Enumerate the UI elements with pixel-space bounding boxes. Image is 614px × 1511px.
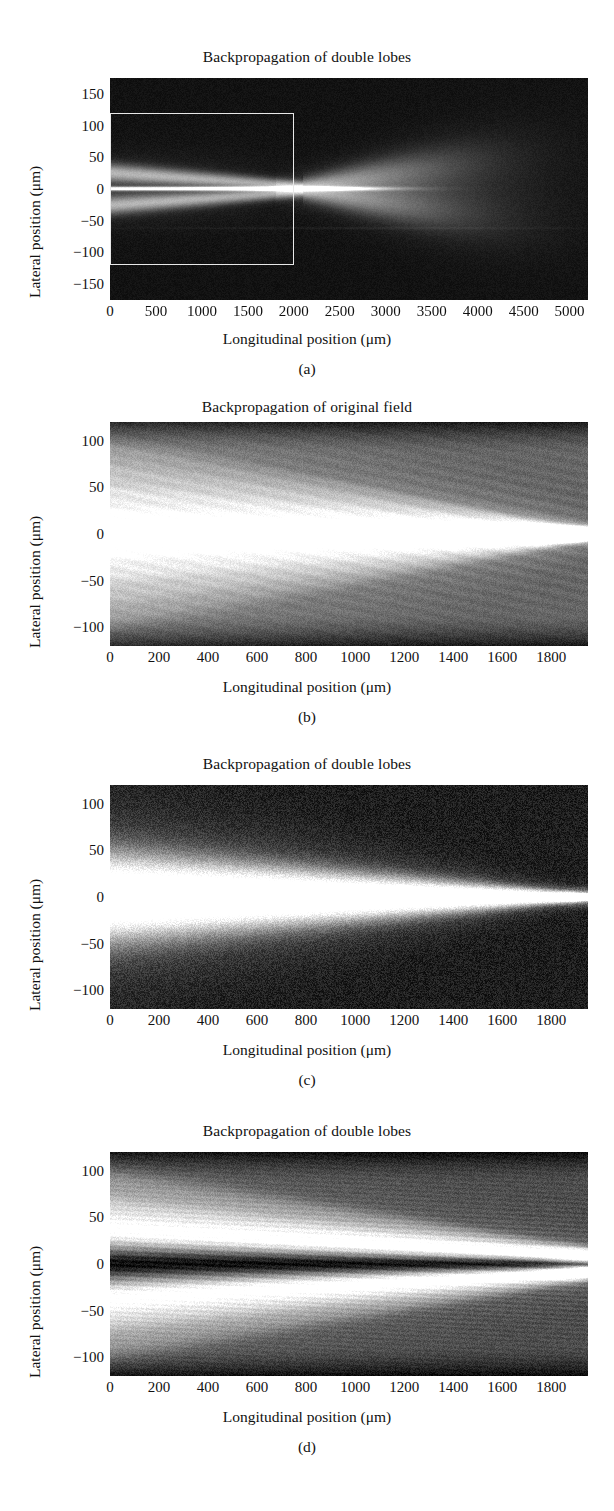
y-tick-label: 50 <box>89 842 104 859</box>
y-tick-label: −100 <box>73 619 104 636</box>
x-tick-label: 400 <box>197 1379 220 1396</box>
y-tick-label: 0 <box>97 526 105 543</box>
x-tick-label: 1200 <box>389 1012 419 1029</box>
panel-b-title: Backpropagation of original field <box>0 398 614 416</box>
y-tick-label: 100 <box>82 432 105 449</box>
x-tick-label: 800 <box>295 649 318 666</box>
panel-b-yticks: 100500−50−100 <box>40 422 104 646</box>
x-tick-label: 800 <box>295 1379 318 1396</box>
panel-c-yticks: 100500−50−100 <box>40 785 104 1009</box>
y-tick-label: −100 <box>73 982 104 999</box>
x-tick-label: 1800 <box>536 649 566 666</box>
panel-b: Backpropagation of original field Latera… <box>0 390 614 745</box>
x-tick-label: 3500 <box>417 303 447 320</box>
panel-b-xlabel: Longitudinal position (μm) <box>0 678 614 696</box>
y-tick-label: −150 <box>73 276 104 293</box>
y-tick-label: 0 <box>97 1256 105 1273</box>
x-tick-label: 0 <box>106 649 114 666</box>
x-tick-label: 1600 <box>487 1379 517 1396</box>
panel-a-heatmap <box>110 78 588 300</box>
x-tick-label: 1000 <box>340 1379 370 1396</box>
panel-d-plot <box>110 1152 588 1376</box>
y-tick-label: −100 <box>73 244 104 261</box>
panel-c-title: Backpropagation of double lobes <box>0 755 614 773</box>
x-tick-label: 500 <box>145 303 168 320</box>
panel-a-xticks: 0500100015002000250030003500400045005000 <box>110 303 588 323</box>
x-tick-label: 800 <box>295 1012 318 1029</box>
y-tick-label: 50 <box>89 1209 104 1226</box>
x-tick-label: 400 <box>197 649 220 666</box>
y-tick-label: 100 <box>82 117 105 134</box>
panel-a-caption: (a) <box>0 360 614 378</box>
panel-c: Backpropagation of double lobes Lateral … <box>0 745 614 1102</box>
panel-c-caption: (c) <box>0 1071 614 1089</box>
y-tick-label: −50 <box>81 212 104 229</box>
x-tick-label: 1000 <box>340 1012 370 1029</box>
x-tick-label: 200 <box>148 1012 171 1029</box>
panel-c-xticks: 020040060080010001200140016001800 <box>110 1012 588 1032</box>
y-tick-label: −50 <box>81 935 104 952</box>
panel-a: Backpropagation of double lobes Lateral … <box>0 0 614 390</box>
x-tick-label: 5000 <box>555 303 585 320</box>
x-tick-label: 600 <box>246 1012 269 1029</box>
panel-b-caption: (b) <box>0 708 614 726</box>
y-tick-label: 0 <box>97 181 105 198</box>
x-tick-label: 1400 <box>438 649 468 666</box>
y-tick-label: 100 <box>82 1162 105 1179</box>
y-tick-label: −50 <box>81 572 104 589</box>
x-tick-label: 1000 <box>340 649 370 666</box>
x-tick-label: 0 <box>106 1012 114 1029</box>
x-tick-label: 1600 <box>487 649 517 666</box>
x-tick-label: 1000 <box>187 303 217 320</box>
x-tick-label: 0 <box>106 1379 114 1396</box>
x-tick-label: 3000 <box>371 303 401 320</box>
x-tick-label: 1200 <box>389 649 419 666</box>
panel-c-xlabel: Longitudinal position (μm) <box>0 1041 614 1059</box>
x-tick-label: 1400 <box>438 1012 468 1029</box>
panel-b-heatmap <box>110 422 588 646</box>
panel-d-yticks: 100500−50−100 <box>40 1152 104 1376</box>
x-tick-label: 1800 <box>536 1379 566 1396</box>
x-tick-label: 2500 <box>325 303 355 320</box>
panel-d: Backpropagation of double lobes Lateral … <box>0 1102 614 1511</box>
y-tick-label: 150 <box>82 85 105 102</box>
x-tick-label: 4000 <box>463 303 493 320</box>
panel-d-heatmap <box>110 1152 588 1376</box>
x-tick-label: 600 <box>246 649 269 666</box>
y-tick-label: 100 <box>82 795 105 812</box>
x-tick-label: 1200 <box>389 1379 419 1396</box>
panel-d-caption: (d) <box>0 1438 614 1456</box>
x-tick-label: 1600 <box>487 1012 517 1029</box>
x-tick-label: 600 <box>246 1379 269 1396</box>
panel-c-heatmap <box>110 785 588 1009</box>
panel-a-plot <box>110 78 588 300</box>
x-tick-label: 4500 <box>509 303 539 320</box>
y-tick-label: 50 <box>89 479 104 496</box>
y-tick-label: −50 <box>81 1302 104 1319</box>
panel-b-plot <box>110 422 588 646</box>
y-tick-label: 0 <box>97 889 105 906</box>
panel-a-title: Backpropagation of double lobes <box>0 48 614 66</box>
panel-d-title: Backpropagation of double lobes <box>0 1122 614 1140</box>
x-tick-label: 1800 <box>536 1012 566 1029</box>
panel-a-yticks: 150100500−50−100−150 <box>40 78 104 300</box>
x-tick-label: 200 <box>148 1379 171 1396</box>
panel-a-xlabel: Longitudinal position (μm) <box>0 330 614 348</box>
y-tick-label: 50 <box>89 149 104 166</box>
panel-c-plot <box>110 785 588 1009</box>
y-tick-label: −100 <box>73 1349 104 1366</box>
panel-d-xlabel: Longitudinal position (μm) <box>0 1408 614 1426</box>
x-tick-label: 1400 <box>438 1379 468 1396</box>
x-tick-label: 400 <box>197 1012 220 1029</box>
x-tick-label: 1500 <box>233 303 263 320</box>
x-tick-label: 2000 <box>279 303 309 320</box>
panel-b-xticks: 020040060080010001200140016001800 <box>110 649 588 669</box>
x-tick-label: 0 <box>106 303 114 320</box>
panel-d-xticks: 020040060080010001200140016001800 <box>110 1379 588 1399</box>
x-tick-label: 200 <box>148 649 171 666</box>
